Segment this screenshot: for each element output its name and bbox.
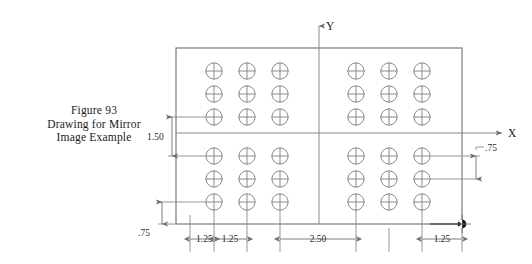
hole	[413, 147, 430, 164]
hole	[413, 170, 430, 187]
hole	[238, 147, 255, 164]
hole	[347, 147, 364, 164]
hole	[347, 108, 364, 125]
hole	[205, 108, 222, 125]
hole	[271, 85, 288, 102]
hole	[380, 193, 397, 210]
leader-line	[476, 147, 484, 150]
hole	[413, 193, 430, 210]
dimension-label-1-25-a: 1.25	[196, 234, 213, 244]
figure-canvas: Figure 93 Drawing for Mirror Image Examp…	[0, 0, 532, 264]
dimension-label-2-50: 2.50	[310, 234, 327, 244]
lower-right-group	[347, 147, 430, 210]
hole	[271, 147, 288, 164]
hole	[380, 85, 397, 102]
hole	[380, 170, 397, 187]
hole	[238, 170, 255, 187]
upper-left-group	[205, 62, 288, 125]
datum-target	[430, 215, 471, 233]
dimension-label-left-75: .75	[138, 228, 150, 238]
hole	[271, 193, 288, 210]
axis-y: Y	[319, 20, 335, 224]
hole	[347, 170, 364, 187]
hole	[271, 170, 288, 187]
hole	[271, 62, 288, 79]
hole	[238, 62, 255, 79]
hole	[347, 193, 364, 210]
dimension-label-right-75: .75	[485, 143, 497, 153]
axis-x: X	[176, 127, 517, 139]
hole	[238, 193, 255, 210]
hole	[413, 62, 430, 79]
hole	[380, 147, 397, 164]
hole	[205, 85, 222, 102]
hole	[205, 193, 222, 210]
upper-right-group	[347, 62, 430, 125]
dimension-label-1-25-b: 1.25	[222, 234, 239, 244]
hole	[380, 108, 397, 125]
dimension-label-1-25-c: 1.25	[434, 234, 451, 244]
technical-drawing: Y X	[0, 0, 532, 264]
hole	[347, 62, 364, 79]
lower-left-group	[205, 147, 288, 210]
hole	[205, 147, 222, 164]
hole	[413, 108, 430, 125]
hole	[347, 85, 364, 102]
dimension-vertical-right-75: .75	[431, 143, 497, 179]
hole	[238, 85, 255, 102]
hole	[205, 62, 222, 79]
hole	[238, 108, 255, 125]
hole	[413, 85, 430, 102]
dimension-chain-horizontal: 1.25 1.25 2.50 1.25	[190, 210, 462, 252]
axis-x-label: X	[508, 127, 517, 139]
dimension-label-1-50: 1.50	[147, 132, 164, 142]
hole	[380, 62, 397, 79]
axis-y-label: Y	[326, 20, 335, 32]
hole	[271, 108, 288, 125]
dimension-vertical-left-75: .75	[138, 202, 205, 238]
hole	[205, 170, 222, 187]
